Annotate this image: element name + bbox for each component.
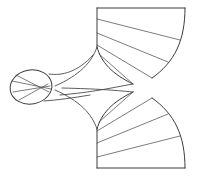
figure-root <box>0 0 198 177</box>
ruled-surface-figure <box>0 0 198 177</box>
figure-background <box>0 0 198 177</box>
